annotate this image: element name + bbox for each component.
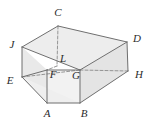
solid-diagram-svg bbox=[0, 0, 152, 121]
vertex-label-D: D bbox=[133, 33, 141, 44]
vertex-label-C: C bbox=[54, 7, 61, 18]
vertex-label-F: F bbox=[50, 69, 57, 80]
vertex-label-E: E bbox=[7, 75, 14, 86]
vertex-label-B: B bbox=[81, 108, 88, 119]
geometry-figure: C J D L E F G H A B bbox=[0, 0, 152, 121]
vertex-label-G: G bbox=[72, 70, 80, 81]
vertex-label-J: J bbox=[10, 39, 15, 50]
vertex-label-L: L bbox=[60, 53, 66, 64]
vertex-label-A: A bbox=[44, 108, 51, 119]
vertex-label-H: H bbox=[135, 69, 143, 80]
